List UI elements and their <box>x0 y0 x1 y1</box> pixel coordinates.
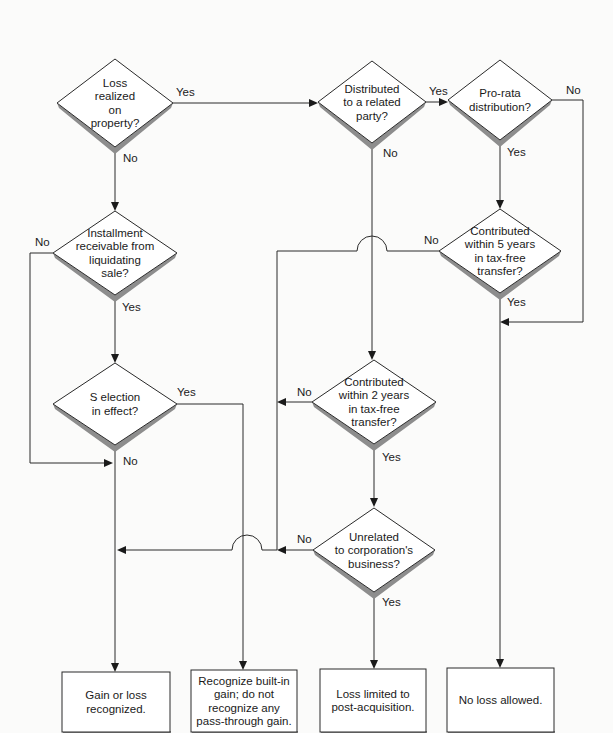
arrowhead-icon <box>277 398 286 406</box>
decision-text: within 5 years <box>464 238 536 250</box>
outcome-text: Gain or loss <box>85 689 147 701</box>
decision-text: realized <box>95 90 135 102</box>
decision-text: transfer? <box>477 265 522 277</box>
outcome-text: post-acquisition. <box>331 701 414 713</box>
decision-text: sale? <box>101 267 129 279</box>
decision-text: Unrelated <box>349 531 399 543</box>
outcome-text: No loss allowed. <box>459 694 543 706</box>
decision-text: Contributed <box>344 376 403 388</box>
edge-label-no: No <box>35 236 50 248</box>
arrowhead-icon <box>439 98 448 106</box>
arrowhead-icon <box>277 546 286 554</box>
tax-loss-flowchart: Lossrealizedonproperty?Distributedto a r… <box>0 0 613 733</box>
edge-label-yes: Yes <box>507 296 526 308</box>
decision-text: in effect? <box>92 405 138 417</box>
outcome-text: Recognize built-in <box>198 675 289 687</box>
arrowhead-icon <box>104 459 113 467</box>
decision-unrelated: Unrelatedto corporation'sbusiness? <box>313 508 435 599</box>
arrowhead-icon <box>496 659 504 668</box>
arrowhead-icon <box>370 498 378 507</box>
edge-labels: YesNoYesNoNoYesNoYesNoYesYesNoNoYesNoYes <box>35 84 581 608</box>
decision-text: business? <box>348 558 400 570</box>
edge-label-no: No <box>383 147 398 159</box>
decision-text: in tax-free <box>474 252 525 264</box>
decision-installment: Installmentreceivable fromliquidatingsal… <box>53 211 177 302</box>
decision-text: Distributed <box>345 83 400 95</box>
connector-line <box>177 404 243 668</box>
arrowhead-icon <box>117 546 126 554</box>
arrowhead-icon <box>111 663 119 672</box>
edge-label-no: No <box>123 152 138 164</box>
outcome-text: pass-through gain. <box>196 715 291 727</box>
arrowhead-icon <box>496 200 504 209</box>
arrowhead-icon <box>111 202 119 211</box>
edge-label-yes: Yes <box>507 146 526 158</box>
outcome-text: gain; do not <box>214 688 275 700</box>
decision-text: receivable from <box>76 240 155 252</box>
decision-text: to corporation's <box>335 544 414 556</box>
arrowhead-icon <box>239 661 247 670</box>
decision-contributed_5: Contributedwithin 5 yearsin tax-freetran… <box>439 209 561 300</box>
decision-distributed_related: Distributedto a relatedparty? <box>318 61 426 150</box>
decision-text: Loss <box>103 77 128 89</box>
decision-text: distribution? <box>469 101 531 113</box>
decision-text: S election <box>90 391 141 403</box>
outcome-recognize_built_in: Recognize built-ingain; do notrecognize … <box>191 670 298 733</box>
edge-label-no: No <box>297 386 312 398</box>
outcome-text: recognized. <box>86 703 145 715</box>
outcome-loss_limited: Loss limited topost-acquisition. <box>320 669 427 733</box>
edge-label-no: No <box>424 234 439 246</box>
edge-label-no: No <box>297 533 312 545</box>
decision-text: on <box>109 104 122 116</box>
outcome-no_loss: No loss allowed. <box>447 668 555 733</box>
arrowhead-icon <box>368 351 376 360</box>
decision-loss_realized: Lossrealizedonproperty? <box>57 59 173 154</box>
edge-label-yes: Yes <box>177 386 196 398</box>
decision-pro_rata: Pro-ratadistribution? <box>448 60 552 147</box>
decision-contributed_2: Contributedwithin 2 yearsin tax-freetran… <box>312 360 436 451</box>
edge-label-yes: Yes <box>176 86 195 98</box>
decision-text: liquidating <box>89 254 141 266</box>
edge-label-no: No <box>123 455 138 467</box>
edge-label-no: No <box>566 84 581 96</box>
outcome-text: recognize any <box>208 702 280 714</box>
decision-text: property? <box>91 117 140 129</box>
decision-text: party? <box>356 110 388 122</box>
arrowhead-icon <box>370 660 378 669</box>
decision-text: to a related <box>343 96 401 108</box>
outcome-text: Loss limited to <box>336 688 410 700</box>
outcome-gain_loss_recognized: Gain or lossrecognized. <box>62 672 171 733</box>
edge-label-yes: Yes <box>122 301 141 313</box>
arrowhead-icon <box>111 354 119 363</box>
decision-text: transfer? <box>351 416 396 428</box>
arrowhead-icon <box>309 99 318 107</box>
arrowhead-icon <box>500 318 509 326</box>
decision-text: Installment <box>87 227 143 239</box>
decision-text: in tax-free <box>348 403 399 415</box>
decision-text: Pro-rata <box>479 87 521 99</box>
edge-label-yes: Yes <box>382 596 401 608</box>
decision-text: within 2 years <box>338 389 410 401</box>
edge-label-yes: Yes <box>429 85 448 97</box>
decision-s_election: S electionin effect? <box>53 363 177 452</box>
edge-label-yes: Yes <box>382 451 401 463</box>
decision-text: Contributed <box>470 225 529 237</box>
